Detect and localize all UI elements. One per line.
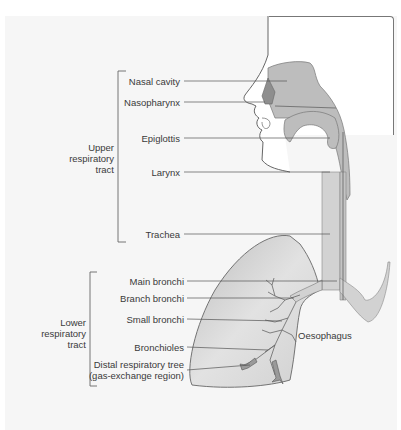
label-bronchioles: Bronchioles bbox=[134, 342, 184, 353]
label-epiglottis: Epiglottis bbox=[141, 133, 180, 144]
label-nasopharynx: Nasopharynx bbox=[124, 97, 180, 108]
lower-respiratory-tract-label: Lower respiratory tract bbox=[18, 317, 86, 350]
anatomy-illustration bbox=[0, 0, 401, 430]
label-main-bronchi: Main bronchi bbox=[130, 276, 184, 287]
label-small-bronchi: Small bronchi bbox=[126, 314, 184, 325]
label-nasal-cavity: Nasal cavity bbox=[129, 76, 180, 87]
lung-shape bbox=[190, 235, 320, 387]
upper-line-1: Upper bbox=[48, 142, 114, 153]
tongue-shape bbox=[284, 111, 339, 148]
upper-respiratory-tract-label: Upper respiratory tract bbox=[48, 142, 114, 175]
upper-line-3: tract bbox=[48, 164, 114, 175]
right-bronchus-shape bbox=[340, 262, 390, 322]
label-oesophagus: Oesophagus bbox=[298, 330, 352, 341]
distal-line-2: (gas-exchange region) bbox=[89, 370, 184, 381]
lower-line-3: tract bbox=[18, 339, 86, 350]
lower-line-1: Lower bbox=[18, 317, 86, 328]
label-distal-respiratory-tree: Distal respiratory tree (gas-exchange re… bbox=[89, 359, 184, 381]
label-trachea: Trachea bbox=[146, 229, 181, 240]
label-branch-bronchi: Branch bronchi bbox=[120, 293, 184, 304]
lower-line-2: respiratory bbox=[18, 328, 86, 339]
trachea-shape bbox=[322, 172, 340, 290]
distal-line-1: Distal respiratory tree bbox=[89, 359, 184, 370]
label-larynx: Larynx bbox=[151, 167, 180, 178]
upper-line-2: respiratory bbox=[48, 153, 114, 164]
